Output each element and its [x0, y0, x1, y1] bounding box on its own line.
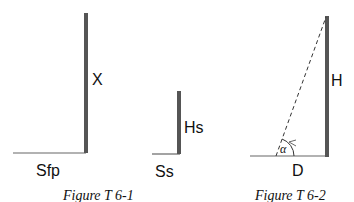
- figure-t6-1-right: Hs Ss: [152, 91, 204, 180]
- label-h: H: [331, 72, 343, 89]
- pole-h: [325, 16, 329, 157]
- label-hs: Hs: [184, 119, 204, 136]
- label-alpha: α: [280, 142, 287, 156]
- label-x: X: [92, 71, 103, 88]
- pole-hs: [177, 91, 181, 154]
- label-d: D: [292, 162, 304, 179]
- caption-t6-1: Figure T 6-1: [62, 188, 134, 202]
- sightline-dashed: [276, 17, 326, 156]
- figure-t6-1-left: X Sfp: [13, 13, 103, 179]
- diagram-canvas: X Sfp Hs Ss Figure T 6-1 α H D Figure T …: [0, 0, 354, 202]
- figure-t6-2: α H D: [250, 16, 343, 179]
- label-ss: Ss: [155, 163, 174, 180]
- label-sfp: Sfp: [36, 162, 60, 179]
- pole-x: [84, 13, 88, 153]
- caption-t6-2: Figure T 6-2: [254, 188, 326, 202]
